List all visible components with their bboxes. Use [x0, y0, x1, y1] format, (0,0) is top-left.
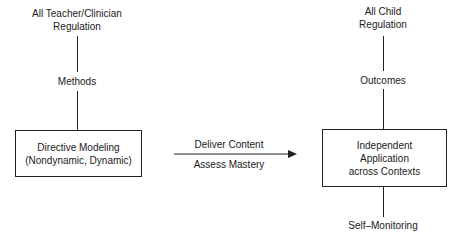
- self-monitoring-label: Self–Monitoring: [333, 219, 433, 232]
- arrowhead-icon: [288, 150, 297, 158]
- right-connector-bottom: [383, 187, 384, 217]
- child-regulation-line2: Regulation: [359, 19, 407, 30]
- right-connector-middle: [383, 89, 384, 129]
- assess-mastery-label: Assess Mastery: [174, 158, 284, 171]
- independent-application-line1: Independent: [357, 139, 413, 152]
- right-connector-top: [383, 36, 384, 71]
- child-regulation-label: All Child Regulation: [333, 5, 433, 31]
- independent-application-line3: across Contexts: [349, 165, 421, 178]
- child-regulation-line1: All Child: [365, 6, 402, 17]
- independent-application-box: Independent Application across Contexts: [322, 129, 447, 187]
- independent-application-line2: Application: [360, 152, 409, 165]
- outcomes-label: Outcomes: [333, 74, 433, 87]
- arrow-graphic: [0, 0, 456, 242]
